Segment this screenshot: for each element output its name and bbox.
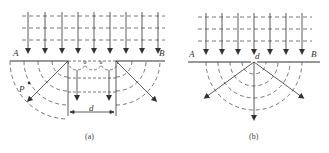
label-p: P xyxy=(18,84,25,94)
label-a-right: B xyxy=(159,48,165,58)
incident-wavefronts xyxy=(22,16,165,40)
panel-a xyxy=(10,12,165,119)
edge-wavefronts xyxy=(10,61,160,119)
label-a-left: A xyxy=(12,48,19,58)
caption-a: (a) xyxy=(85,132,94,141)
point-p xyxy=(28,82,31,85)
incident-wavefronts-b xyxy=(198,17,312,41)
label-d-a: d xyxy=(89,103,94,113)
incident-rays-b xyxy=(206,13,302,52)
label-b-right: B xyxy=(311,49,317,59)
panel-b xyxy=(188,13,320,118)
diffracted-rays-a xyxy=(29,61,155,100)
diffraction-figure: A B P d (a) xyxy=(0,0,329,153)
label-b-left: A xyxy=(188,49,195,59)
diffracted-rays-b xyxy=(206,62,302,118)
wavelets xyxy=(68,61,118,92)
caption-b: (b) xyxy=(249,132,259,141)
incident-rays xyxy=(28,12,158,51)
label-d-b: d xyxy=(255,51,260,61)
